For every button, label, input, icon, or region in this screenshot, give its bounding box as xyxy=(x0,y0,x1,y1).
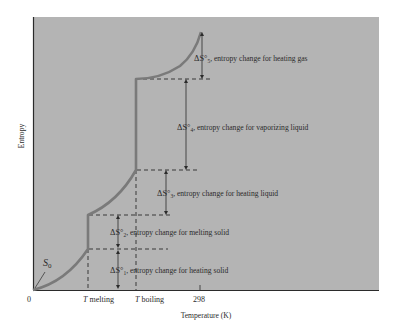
ds4-label: ΔS°4, entropy change for vaporizing liqu… xyxy=(177,123,308,133)
tick-t-melting: T melting xyxy=(83,295,114,304)
ds2-label: ΔS°2, entropy change for melting solid xyxy=(110,228,229,238)
tick-298: 298 xyxy=(193,295,205,304)
x-axis-title: Temperature (K) xyxy=(181,311,232,320)
ds1-label: ΔS°1, entropy change for heating solid xyxy=(110,266,228,276)
tick-t-boiling: T boiling xyxy=(135,295,164,304)
entropy-temperature-chart: S0 ΔS°1, entropy change for heating soli… xyxy=(0,0,394,322)
ds5-label: ΔS°5, entropy change for heating gas xyxy=(194,54,308,64)
ds3-label: ΔS°3, entropy change for heating liquid xyxy=(157,189,278,199)
tick-zero: 0 xyxy=(27,295,31,304)
y-axis-title: Entropy xyxy=(17,124,26,149)
